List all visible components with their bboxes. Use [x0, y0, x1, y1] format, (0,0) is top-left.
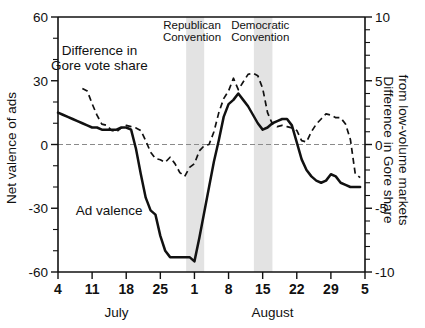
x-axis-month-label: July	[104, 305, 128, 320]
y2-tick-label: -10	[375, 265, 395, 280]
x-tick-label: 25	[153, 281, 169, 297]
series-inline-label: Gore vote share	[51, 58, 148, 73]
x-tick-label: 29	[323, 281, 339, 297]
bottom-axis: 4111825181522295 JulyAugust	[54, 272, 369, 320]
y-tick-label: 0	[40, 138, 48, 153]
x-tick-label: 18	[118, 281, 134, 297]
x-tick-label: 5	[361, 281, 369, 297]
y-axis-left-title: Net valence of ads	[4, 92, 19, 204]
x-axis-month-label: August	[251, 305, 293, 320]
annotation-label: Convention	[163, 31, 221, 43]
series-inline-label: Ad valence	[76, 203, 143, 218]
x-tick-label: 4	[54, 281, 62, 297]
annotation-label: Republican	[163, 19, 221, 31]
line-chart-svg: 60300-30-60 1050-5-10 4111825181522295 J…	[0, 0, 425, 328]
x-tick-label: 22	[289, 281, 305, 297]
x-tick-label: 1	[191, 281, 199, 297]
y-axis-right-title-line1: Difference in Gore share	[381, 77, 396, 224]
y-axis-right-title-line2: from low-volume markets	[396, 75, 411, 226]
chart-figure: 60300-30-60 1050-5-10 4111825181522295 J…	[0, 0, 425, 328]
series-inline-label: Difference in	[62, 43, 138, 58]
series-ad-valence	[58, 94, 360, 262]
x-tick-label: 11	[85, 281, 100, 297]
x-tick-label: 15	[255, 281, 271, 297]
y2-tick-label: 10	[375, 10, 390, 25]
x-tick-label: 8	[225, 281, 233, 297]
annotation-label: Democratic	[231, 19, 289, 31]
y-tick-label: -30	[28, 201, 48, 216]
y-tick-label: 60	[33, 10, 48, 25]
y-tick-label: -60	[28, 265, 48, 280]
left-axis: 60300-30-60	[28, 10, 58, 280]
y-tick-label: 30	[33, 74, 48, 89]
annotation-label: Convention	[231, 31, 289, 43]
